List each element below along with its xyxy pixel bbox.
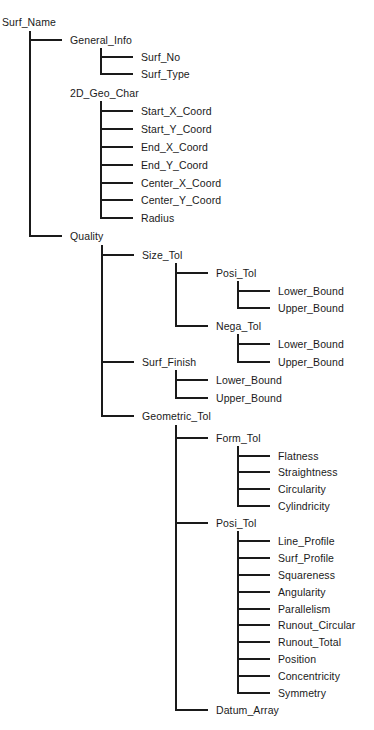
trunk-nega-tol	[237, 334, 239, 362]
node-center-x-coord: Center_X_Coord	[141, 177, 221, 189]
branch-general-info	[29, 39, 62, 41]
trunk-general-info	[100, 48, 102, 75]
branch-runout-circular	[237, 624, 270, 626]
node-lower-bound-posi: Lower_Bound	[278, 285, 344, 297]
trunk-posi-tol-size	[237, 281, 239, 308]
node-posi-tol-geo: Posi_Tol	[216, 517, 257, 529]
node-upper-bound-posi: Upper_Bound	[278, 302, 344, 314]
node-cylindricity: Cylindricity	[278, 500, 330, 512]
node-end-x-coord: End_X_Coord	[141, 141, 208, 153]
node-squareness: Squareness	[278, 569, 335, 581]
node-runout-total: Runout_Total	[278, 636, 341, 648]
branch-center-y	[100, 199, 133, 201]
branch-nega-tol	[175, 325, 208, 327]
node-parallelism: Parallelism	[278, 603, 330, 615]
node-position: Position	[278, 653, 316, 665]
branch-flatness	[237, 455, 270, 457]
node-posi-tol-size: Posi_Tol	[216, 267, 257, 279]
node-geometric-tol: Geometric_Tol	[142, 410, 211, 422]
node-2d-geo-char: 2D_Geo_Char	[70, 87, 139, 99]
trunk-posi-tol-geo	[237, 531, 239, 693]
branch-upper-bound-posi	[237, 307, 270, 309]
node-circularity: Circularity	[278, 483, 326, 495]
node-concentricity: Concentricity	[278, 670, 340, 682]
branch-surf-no	[100, 56, 133, 58]
branch-runout-total	[237, 641, 270, 643]
branch-lower-bound-posi	[237, 290, 270, 292]
node-runout-circular: Runout_Circular	[278, 619, 355, 631]
node-lower-bound-nega: Lower_Bound	[278, 338, 344, 350]
node-surf-finish: Surf_Finish	[142, 356, 196, 368]
branch-quality	[29, 235, 62, 237]
node-form-tol: Form_Tol	[216, 432, 261, 444]
branch-posi-tol-size	[175, 272, 208, 274]
branch-datum-array	[175, 709, 208, 711]
branch-lower-bound-nega	[237, 343, 270, 345]
branch-line-profile	[237, 540, 270, 542]
node-angularity: Angularity	[278, 586, 326, 598]
branch-surf-type	[100, 73, 133, 75]
node-end-y-coord: End_Y_Coord	[141, 159, 208, 171]
node-surf-profile: Surf_Profile	[278, 552, 334, 564]
trunk-surf-name	[29, 31, 31, 237]
node-upper-bound-finish: Upper_Bound	[216, 392, 282, 404]
hierarchy-tree-diagram: Surf_Name General_Info Surf_No Surf_Type…	[0, 0, 374, 730]
branch-center-x	[100, 182, 133, 184]
branch-end-y	[100, 164, 133, 166]
node-surf-type: Surf_Type	[141, 68, 190, 80]
node-flatness: Flatness	[278, 450, 318, 462]
branch-upper-bound-nega	[237, 361, 270, 363]
branch-position	[237, 658, 270, 660]
node-surf-no: Surf_No	[141, 51, 180, 63]
branch-lower-bound-finish	[175, 379, 208, 381]
branch-straightness	[237, 471, 270, 473]
trunk-quality	[101, 245, 103, 416]
node-start-x-coord: Start_X_Coord	[141, 105, 212, 117]
branch-posi-tol-geo	[175, 522, 208, 524]
node-radius: Radius	[141, 212, 174, 224]
branch-surf-profile	[237, 557, 270, 559]
node-symmetry: Symmetry	[278, 687, 326, 699]
branch-angularity	[237, 591, 270, 593]
branch-cylindricity	[237, 505, 270, 507]
trunk-geometric-tol	[175, 425, 177, 710]
branch-circularity	[237, 488, 270, 490]
branch-concentricity	[237, 675, 270, 677]
branch-start-x	[100, 110, 133, 112]
branch-surf-finish	[101, 361, 134, 363]
node-surf-name: Surf_Name	[2, 16, 56, 28]
node-quality: Quality	[70, 230, 103, 242]
branch-squareness	[237, 574, 270, 576]
branch-upper-bound-finish	[175, 397, 208, 399]
node-lower-bound-finish: Lower_Bound	[216, 374, 282, 386]
branch-symmetry	[237, 692, 270, 694]
node-size-tol: Size_Tol	[142, 249, 183, 261]
node-upper-bound-nega: Upper_Bound	[278, 356, 344, 368]
branch-size-tol	[101, 254, 134, 256]
node-general-info: General_Info	[70, 34, 132, 46]
branch-start-y	[100, 128, 133, 130]
branch-radius	[100, 217, 133, 219]
node-straightness: Straightness	[278, 466, 338, 478]
branch-geometric-tol	[101, 415, 134, 417]
node-line-profile: Line_Profile	[278, 535, 335, 547]
node-start-y-coord: Start_Y_Coord	[141, 123, 212, 135]
branch-parallelism	[237, 608, 270, 610]
node-datum-array: Datum_Array	[216, 704, 279, 716]
trunk-surf-finish	[175, 370, 177, 398]
node-nega-tol: Nega_Tol	[216, 320, 261, 332]
branch-end-x	[100, 146, 133, 148]
node-center-y-coord: Center_Y_Coord	[141, 194, 221, 206]
branch-form-tol	[175, 437, 208, 439]
